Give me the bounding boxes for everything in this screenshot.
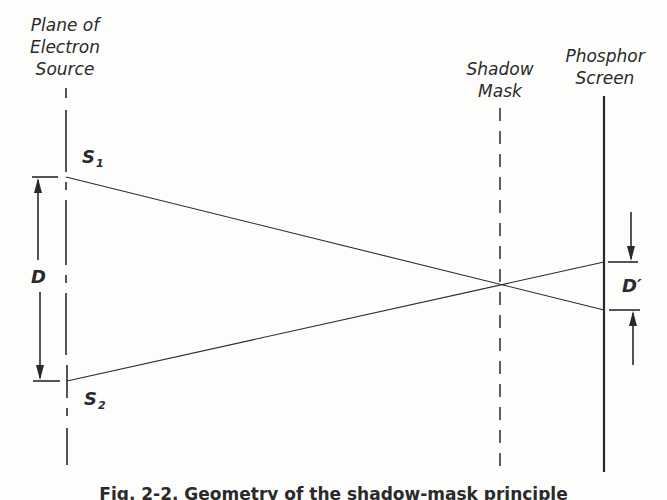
source-plane-label: Plane of Electron Source: [20, 14, 110, 80]
source-plane-label-line-1: Plane of: [20, 14, 110, 36]
shadow-mask-label-line-2: Mask: [452, 80, 548, 102]
s2-letter: S: [84, 388, 97, 409]
s1-letter: S: [82, 146, 95, 167]
phosphor-screen-label: Phosphor Screen: [552, 45, 658, 89]
ray-s2: [67, 262, 604, 381]
s2-subscript: 2: [98, 399, 106, 412]
figure-caption: Fig. 2-2. Geometry of the shadow-mask pr…: [0, 484, 667, 500]
source-plane-line: [66, 88, 67, 465]
shadow-mask-label-line-1: Shadow: [452, 58, 548, 80]
shadow-mask-diagram: Plane of Electron Source Shadow Mask Pho…: [0, 0, 667, 500]
source-plane-label-line-2: Electron: [20, 36, 110, 58]
ray-s1: [66, 177, 604, 310]
source-plane-label-line-3: Source: [20, 58, 110, 80]
d-label: D: [31, 266, 46, 287]
shadow-mask-label: Shadow Mask: [452, 58, 548, 102]
d-prime-label: D′: [622, 275, 642, 296]
phosphor-screen-label-line-1: Phosphor: [552, 45, 658, 67]
phosphor-screen-label-line-2: Screen: [552, 67, 658, 89]
s2-label: S2: [84, 388, 106, 412]
s1-label: S1: [82, 146, 104, 170]
s1-subscript: 1: [96, 157, 104, 170]
